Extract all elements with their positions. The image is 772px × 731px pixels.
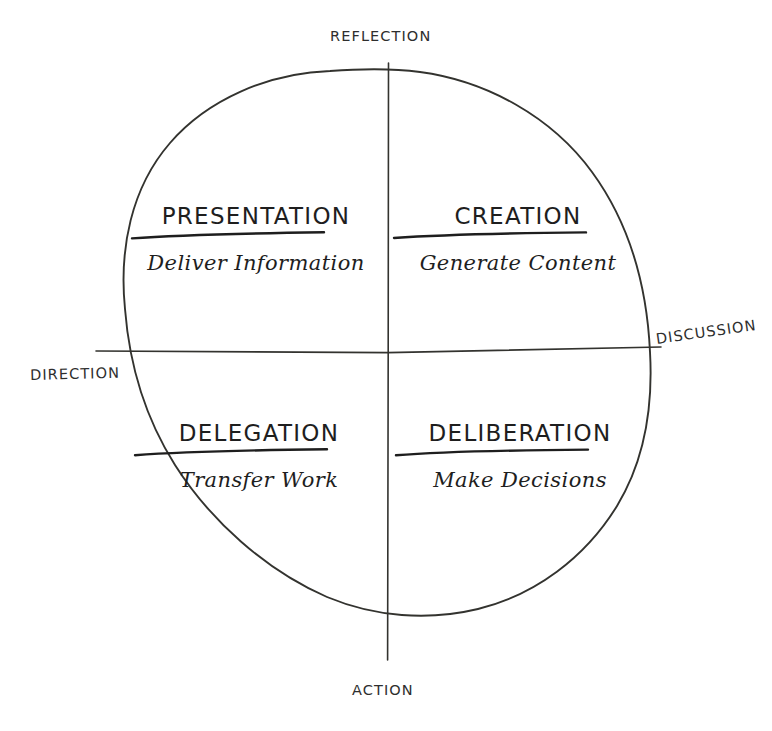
- quadrant-title: DELIBERATION: [429, 422, 612, 445]
- circle-outline: [124, 69, 651, 616]
- horizontal-axis: [96, 347, 661, 353]
- quadrant-title: CREATION: [454, 205, 581, 228]
- quadrant-subtitle: Generate Content: [390, 253, 646, 274]
- quadrant-top-left: PRESENTATION Deliver Information: [128, 205, 384, 274]
- axis-label-discussion: DISCUSSION: [655, 317, 758, 347]
- quadrant-bottom-left: DELEGATION Transfer Work: [131, 422, 387, 491]
- vertical-axis: [388, 63, 389, 660]
- title-underline-icon: [128, 231, 328, 240]
- quadrant-subtitle: Transfer Work: [131, 470, 387, 491]
- diagram-canvas: REFLECTION ACTION DIRECTION DISCUSSION P…: [0, 0, 772, 731]
- quadrant-title: PRESENTATION: [162, 205, 351, 228]
- title-underline-icon: [392, 448, 592, 457]
- quadrant-bottom-right: DELIBERATION Make Decisions: [392, 422, 648, 491]
- axis-label-action: ACTION: [352, 682, 414, 698]
- quadrant-subtitle: Deliver Information: [128, 253, 384, 274]
- quadrant-top-right: CREATION Generate Content: [390, 205, 646, 274]
- title-underline-icon: [390, 231, 590, 240]
- axis-label-reflection: REFLECTION: [330, 28, 431, 44]
- quadrant-subtitle: Make Decisions: [392, 470, 648, 491]
- axis-label-direction: DIRECTION: [30, 365, 120, 383]
- quadrant-title: DELEGATION: [179, 422, 340, 445]
- title-underline-icon: [131, 448, 331, 457]
